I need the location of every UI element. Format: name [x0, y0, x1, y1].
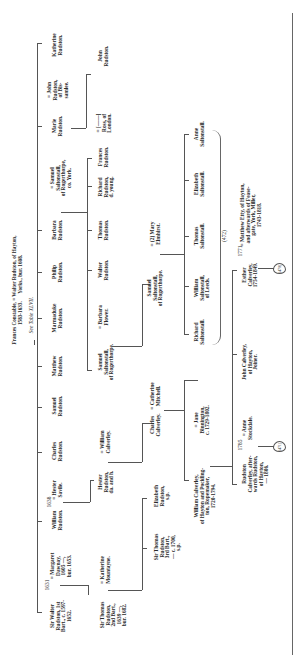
person-samuel-rudston: Samuel Rudston. — [52, 391, 63, 421]
person-william-rudston: William Rudston. — [52, 505, 63, 535]
connector — [90, 480, 91, 502]
person-william-saltonstall: William Saltonstall, of Leeds. — [194, 270, 211, 306]
tick — [87, 370, 92, 371]
spouse-william-calverley: = William Calverley. — [100, 424, 111, 460]
root-descent-line — [34, 340, 35, 345]
person-thomas-rudston-3rd-bart: Sir Thomas Rudston, 3rd Bart., — c. 1700… — [154, 522, 182, 572]
charles-descent — [164, 410, 184, 411]
person-samuel-saltonstall-2: Samuel Saltonstall, of Rogerthorpe. — [147, 264, 164, 312]
tick — [37, 43, 42, 44]
person-richard-rudston: Richard Rudston, d. young. — [98, 172, 115, 202]
barbara-descent — [61, 212, 87, 213]
connector — [142, 284, 143, 346]
ref-471: (471) — [277, 443, 281, 451]
samuel-descent — [112, 346, 142, 347]
page-border-rule — [292, 13, 293, 655]
tick — [184, 380, 198, 381]
tick — [37, 612, 42, 613]
person-hester-rudston: Hester Rudston, da. and h. — [98, 464, 115, 500]
tick — [184, 236, 189, 237]
tick — [37, 318, 42, 319]
person-thomas-saltonstall: Thomas Saltonstall. — [194, 218, 205, 254]
ref-472: (472) — [222, 226, 228, 246]
saltonstall2-sibling-line — [184, 134, 185, 334]
person-marmaduke-rudston: Marmaduke Rudston. — [52, 301, 63, 335]
tick — [87, 270, 92, 271]
tick — [232, 270, 237, 271]
root-note: See Table XLVII. — [29, 260, 35, 370]
person-walter-rudston-1st-bart: Sir Walter Rudston, 1st Bart., c. 1597- … — [50, 592, 72, 640]
spouse-catherine-mitchell: = Catherine Mitchell. — [150, 377, 161, 415]
walter-descent — [60, 585, 88, 586]
tick — [37, 272, 42, 273]
tick — [37, 407, 42, 408]
person-thomas-rudston-2nd-bart: Sir Thomas Rudston, 2nd Bart., 1639 —, b… — [100, 590, 128, 640]
william-c-descent — [210, 466, 232, 467]
tick — [37, 521, 42, 522]
genealogy-page: Frances Constable, = Walter Rudston, of … — [0, 0, 305, 666]
saltonstall-brace — [212, 130, 221, 345]
person-john-rudston-jr: John Rudston. — [98, 42, 109, 70]
spouse-samuel-saltonstall: = Samuel Saltonstall, of Rogerthorpe, co… — [50, 156, 72, 200]
ref-marker-471: (471) — [273, 441, 286, 452]
esther-descent — [258, 268, 274, 269]
person-elizabeth-rudston: Elizabeth Rudston, s.p. — [154, 480, 171, 512]
root-couple: Frances Constable, = Walter Rudston, of … — [12, 160, 23, 420]
person-marie-rudston: Marie Rudston. — [52, 112, 63, 140]
connector — [88, 585, 89, 595]
spouse-john-rudston-bissamlee: = John Rudston, of Bis- samlee. — [47, 72, 69, 108]
connector — [90, 480, 94, 481]
spouse-matthew-etty: = Matthew Etty, of Hayton, and afterward… — [240, 178, 262, 252]
connector — [184, 380, 185, 480]
connector — [86, 74, 87, 128]
tick — [184, 334, 189, 335]
person-william-calverley-ropemaker: William Calverley, of Hayton and Pocklin… — [194, 462, 216, 530]
tick — [184, 180, 189, 181]
spouse-barbara-flower: = Barbara Flower. — [98, 299, 109, 335]
person-anne-saltonstall: Anne Saltonstall. — [194, 116, 205, 152]
tick — [142, 498, 147, 499]
spouse-mary-elmhirst: = (2) Mary Elmhirst. — [150, 216, 161, 252]
person-frances-rudston: Frances Rudston. — [98, 142, 109, 172]
person-rudston-calverley: Rudston Calverley, after- wards Rudston,… — [242, 446, 270, 502]
tick — [37, 230, 42, 231]
samuel2-descent — [160, 254, 184, 255]
gen1-sibling-line — [37, 43, 38, 613]
connector — [142, 423, 143, 462]
tick — [37, 126, 42, 127]
saltonstall-sibling-line — [87, 158, 88, 371]
person-matthew-rudston: Matthew Rudston. — [52, 351, 63, 381]
spouse-margaret-dawnay: = Margaret Dawnay, 1605 —, bur. 1653. — [50, 542, 72, 590]
person-esther-calverley: Esther Calverley, 1754-1849. — [242, 255, 259, 295]
marie-descent — [71, 128, 86, 129]
ref-470: (470) — [277, 265, 281, 273]
person-barbara-rudston: Barbara Rudston. — [52, 215, 63, 245]
person-richard-saltonstall: Richard Saltonstall. — [194, 314, 205, 350]
william-descent — [63, 502, 90, 503]
tick — [87, 230, 92, 231]
person-katherine-rudston: Katherine Rudston. — [52, 28, 63, 62]
tick — [87, 186, 92, 187]
tick — [184, 134, 189, 135]
spouse-katherine-mountayne: = Katherine Mountayne. — [100, 550, 111, 590]
hester-descent — [108, 462, 142, 463]
tick — [37, 452, 42, 453]
person-elizabeth-saltonstall: Elizabeth Saltonstall. — [194, 166, 205, 202]
calverley-sibling-line — [232, 270, 233, 484]
spouse-jane-binnington: = Jane Binnington, c. 1729-1802. — [194, 400, 211, 440]
person-thomas-rudston-jr: Thomas Rudston. — [98, 215, 109, 245]
tick — [232, 354, 237, 355]
ref-marker-470: (470) — [273, 263, 286, 274]
spouse-hester-savile: = Hester Savile. — [52, 475, 63, 505]
person-john-calverley-joiner: John Calverley, of Hayton, Joiner. — [242, 336, 259, 388]
spouse-ross-of-london: = [——] Ross, of London. — [96, 108, 113, 138]
tick — [37, 366, 42, 367]
thomas2-descent — [108, 590, 142, 591]
rudston-c-descent — [258, 446, 274, 447]
tick — [232, 484, 237, 485]
person-charles-rudston: Charles Rudston. — [52, 436, 63, 466]
tick — [184, 480, 189, 481]
tick — [142, 548, 147, 549]
tick — [87, 158, 92, 159]
thomas2-sibling-line — [142, 498, 143, 590]
